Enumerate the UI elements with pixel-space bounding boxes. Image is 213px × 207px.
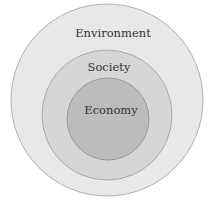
society-label: Society [88, 60, 131, 74]
economy-circle [67, 78, 149, 160]
nested-sustainability-diagram: Environment Society Economy [0, 0, 213, 207]
environment-label: Environment [75, 26, 151, 40]
economy-label: Economy [84, 103, 138, 117]
